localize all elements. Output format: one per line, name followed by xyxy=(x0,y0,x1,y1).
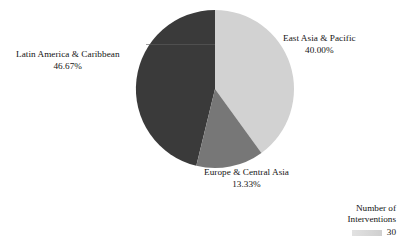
legend-title-line-1: Number of xyxy=(276,203,396,215)
legend-title-line-2: Interventions xyxy=(276,214,396,226)
pie-chart-screenshot: East Asia & Pacific 40.00% Latin America… xyxy=(0,0,402,242)
legend-entry-label: 30 xyxy=(387,227,396,239)
slice-label-name: East Asia & Pacific xyxy=(283,33,356,45)
slice-label-east-asia-pacific: East Asia & Pacific 40.00% xyxy=(283,33,356,56)
slice-label-name: Europe & Central Asia xyxy=(204,167,289,179)
slice-label-europe-central-asia: Europe & Central Asia 13.33% xyxy=(204,167,289,190)
slice-label-percent: 40.00% xyxy=(283,45,356,57)
legend: Number of Interventions 30 xyxy=(276,203,396,239)
legend-color-swatch xyxy=(352,230,382,236)
slice-label-percent: 46.67% xyxy=(16,61,120,73)
slice-label-name: Latin America & Caribbean xyxy=(16,49,120,61)
slice-label-percent: 13.33% xyxy=(204,179,289,191)
legend-entry[interactable]: 30 xyxy=(276,227,396,239)
slice-label-latin-america-caribbean: Latin America & Caribbean 46.67% xyxy=(16,49,120,72)
